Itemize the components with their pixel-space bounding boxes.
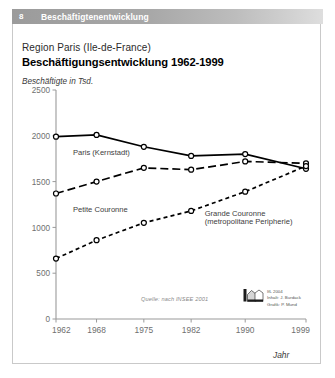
data-point-marker [94, 132, 99, 137]
section-number: 8 [12, 12, 41, 21]
series-line-2 [56, 161, 306, 193]
x-tick-label: 1982 [182, 325, 201, 335]
x-tick-label: 1962 [52, 325, 71, 335]
credit-block: IfL 2004 Inhalt: J. Burdack Grafik: P. M… [243, 288, 301, 308]
y-axis-label: Beschäftigte in Tsd. [22, 77, 93, 86]
data-point-marker [189, 208, 194, 213]
y-tick-label: 500 [36, 269, 50, 278]
screenshot-root: 8 Beschäftigtenentwicklung Region Paris … [0, 0, 335, 378]
y-tick-label: 1000 [32, 224, 51, 233]
x-tick-label: 1990 [236, 325, 255, 335]
x-axis-label: Jahr [273, 350, 289, 360]
x-tick-label: 1975 [135, 325, 154, 335]
y-tick-label: 2000 [32, 132, 51, 141]
data-point-marker [54, 191, 59, 196]
data-point-marker [141, 165, 146, 170]
data-point-marker [243, 152, 248, 157]
data-point-marker [141, 220, 146, 225]
y-tick-label: 0 [45, 315, 50, 324]
institute-logo-icon [243, 288, 264, 303]
data-point-marker [54, 256, 59, 261]
source-note: Quelle: nach INSEE 2001 [141, 296, 208, 302]
x-tick-label: 1968 [87, 325, 106, 335]
credit-line-3: Grafik: P. Mund [267, 302, 301, 309]
data-point-marker [189, 153, 194, 158]
data-point-marker [189, 167, 194, 172]
x-tick-label: 1999 [291, 325, 310, 335]
data-point-marker [243, 189, 248, 194]
series-label: Petite Couronne [73, 205, 128, 214]
section-title: Beschäftigtenentwicklung [41, 12, 149, 22]
series-label: (metropolitane Peripherie) [205, 217, 293, 226]
section-header-bar: 8 Beschäftigtenentwicklung [12, 9, 323, 24]
y-tick-label: 1500 [32, 178, 51, 187]
data-point-marker [141, 144, 146, 149]
chart-subtitle: Region Paris (Ile-de-France) [22, 42, 151, 53]
data-point-marker [94, 238, 99, 243]
y-tick-label: 2500 [32, 86, 51, 95]
data-point-marker [54, 134, 59, 139]
credit-line-2: Inhalt: J. Burdack [267, 295, 301, 302]
data-point-marker [94, 179, 99, 184]
data-point-marker [243, 159, 248, 164]
data-point-marker [304, 164, 309, 169]
chart-title: Beschäftigungsentwicklung 1962-1999 [22, 56, 224, 68]
series-label: Paris (Kernstadt) [73, 148, 130, 157]
